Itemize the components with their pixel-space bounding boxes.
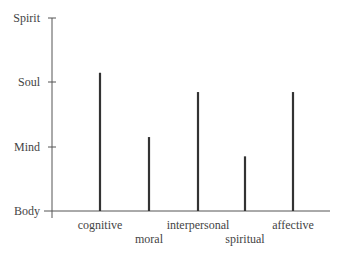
x-label-interpersonal: interpersonal [167,218,230,233]
x-label-spiritual: spiritual [225,232,264,247]
x-label-affective: affective [272,218,314,233]
y-label-body: Body [0,204,40,219]
y-label-mind: Mind [0,140,40,155]
bars [100,73,293,211]
y-label-soul: Soul [0,75,40,90]
x-label-cognitive: cognitive [78,218,123,233]
x-label-moral: moral [135,232,163,247]
y-label-spirit: Spirit [0,11,40,26]
